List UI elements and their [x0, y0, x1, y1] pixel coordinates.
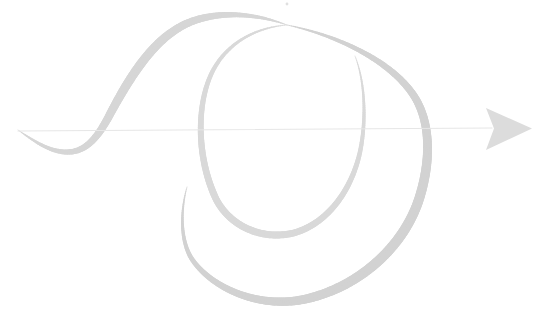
horizontal-axis-line	[18, 128, 492, 131]
flourish-canvas: Calligraphic flourish with horizontal ar…	[0, 0, 551, 321]
arrow-head	[486, 108, 532, 150]
flourish-svg: Calligraphic flourish with horizontal ar…	[0, 0, 551, 321]
outer-loop-stroke	[182, 25, 427, 302]
stroke-layer	[18, 15, 428, 302]
ink-speck	[286, 3, 289, 6]
